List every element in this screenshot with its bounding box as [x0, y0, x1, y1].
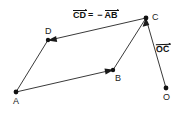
point-label-a: A: [13, 97, 19, 106]
equation-cd-equals-minus-ab: CD=−AB: [73, 10, 118, 20]
vector-oc-symbol: OC: [156, 44, 170, 54]
vector-oc-label: OC: [156, 44, 170, 54]
point-label-c: C: [152, 13, 159, 22]
vertex-dot-b: [111, 68, 115, 72]
vertex-dot-a: [14, 90, 19, 95]
point-label-o: O: [163, 93, 170, 102]
segment-ab: [16, 69, 114, 92]
vertex-dot-o: [164, 86, 169, 91]
segment-ab-line: [16, 71, 110, 93]
minus-sign: −: [95, 11, 104, 20]
point-label-d: D: [45, 27, 52, 36]
vertex-dot-c: [144, 16, 149, 21]
segment-cd-line: [52, 18, 146, 40]
segment-oc-line: [147, 22, 166, 88]
vertex-dot-d: [46, 38, 50, 42]
vector-diagram-figure: A B C D O CD=−AB OC: [0, 0, 187, 117]
segment-ad: [16, 40, 48, 92]
segment-cd: [48, 18, 147, 42]
point-label-b: B: [115, 74, 121, 83]
vector-ab-symbol: AB: [105, 10, 118, 20]
equals-sign: =: [86, 11, 95, 20]
vector-cd-symbol: CD: [73, 10, 86, 20]
segment-bc: [113, 18, 146, 70]
